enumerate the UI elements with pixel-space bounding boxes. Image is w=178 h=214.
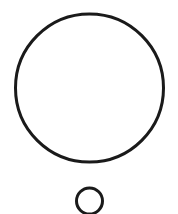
diagram-svg	[0, 0, 178, 214]
diagram-canvas	[0, 0, 178, 214]
background	[0, 0, 178, 214]
